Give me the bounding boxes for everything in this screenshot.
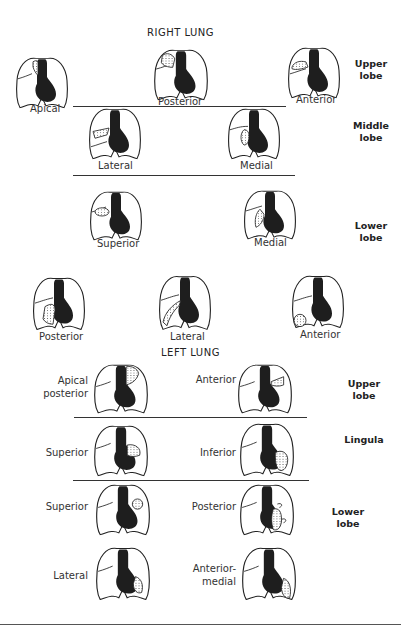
segment-label-lateral: Lateral	[98, 160, 133, 171]
right-lower-lateral-diagram	[157, 273, 213, 333]
right-upper-posterior-diagram	[152, 47, 210, 103]
left-lower-anterior-medial-diagram	[240, 545, 298, 603]
segment-label-lateral-left-lower: Lateral	[40, 570, 88, 581]
right-lower-superior-diagram	[88, 189, 144, 243]
left-lower-posterior-diagram	[238, 482, 296, 538]
segment-label-apical: Apical	[30, 103, 60, 114]
segment-label-medial: Medial	[240, 160, 273, 171]
segment-label-lateral-lower: Lateral	[170, 331, 205, 342]
segment-label-superior-lingula: Superior	[40, 447, 88, 458]
divider-lingula-lower	[73, 480, 309, 481]
divider-middle-lower	[73, 175, 295, 176]
lobe-label-lower: Lower lobe	[346, 220, 396, 244]
segment-label-anterior-medial: Anterior- medial	[186, 562, 236, 588]
lobe-label-middle: Middle lobe	[346, 120, 396, 144]
segment-label-superior: Superior	[97, 238, 139, 249]
lobe-label-upper: Upper lobe	[346, 58, 396, 82]
right-lower-posterior-diagram	[31, 275, 87, 333]
bottom-rule	[0, 624, 401, 625]
segment-label-anterior-lower: Anterior	[300, 329, 340, 340]
segment-label-anterior: Anterior	[296, 94, 336, 105]
segment-label-superior-left-lower: Superior	[40, 501, 88, 512]
left-lower-superior-diagram	[94, 482, 152, 538]
left-upper-apical-posterior-diagram	[92, 362, 150, 416]
segment-label-apical-posterior: Apical posterior	[40, 374, 88, 400]
right-middle-lateral-diagram	[87, 106, 143, 162]
lobe-label-lingula: Lingula	[339, 434, 389, 446]
right-upper-anterior-diagram	[286, 45, 342, 101]
right-lower-anterior-diagram	[290, 273, 346, 331]
left-lung-title: LEFT LUNG	[161, 347, 220, 358]
right-lower-medial-diagram	[242, 188, 298, 242]
left-upper-anterior-diagram	[236, 362, 294, 416]
left-lingula-superior-diagram	[92, 423, 150, 479]
left-lingula-inferior-diagram	[238, 421, 296, 479]
left-lower-lateral-diagram	[94, 545, 152, 603]
segment-label-medial-lower: Medial	[254, 237, 287, 248]
lobe-label-left-lower: Lower lobe	[323, 506, 373, 530]
right-lung-title: RIGHT LUNG	[147, 27, 214, 38]
right-middle-medial-diagram	[226, 106, 282, 162]
divider-upper-lingula	[74, 417, 307, 418]
segment-label-inferior: Inferior	[188, 447, 236, 458]
segment-label-anterior-left: Anterior	[188, 374, 236, 385]
segment-label-posterior-lower: Posterior	[39, 331, 83, 342]
lobe-label-left-upper: Upper lobe	[339, 378, 389, 402]
segment-label-posterior-left-lower: Posterior	[186, 501, 236, 512]
